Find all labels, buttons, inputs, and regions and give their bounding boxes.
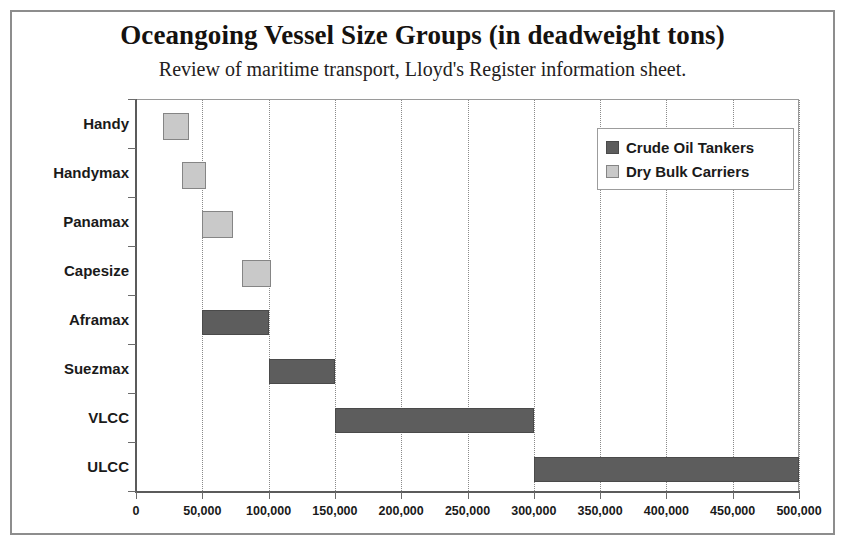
- y-axis-labels: HandyHandymaxPanamaxCapesizeAframaxSuezm…: [5, 99, 129, 491]
- y-axis-category-label: Handymax: [9, 164, 129, 181]
- y-axis-category-label: VLCC: [9, 409, 129, 426]
- chart-subtitle: Review of maritime transport, Lloyd's Re…: [20, 58, 825, 81]
- y-axis-tick: [128, 197, 136, 198]
- y-axis-tick: [128, 246, 136, 247]
- legend-swatch-drybulk: [606, 165, 619, 178]
- chart-page: Oceangoing Vessel Size Groups (in deadwe…: [0, 0, 847, 547]
- y-axis-tick: [128, 442, 136, 443]
- gridline-vertical: [202, 100, 203, 491]
- y-axis-tick: [128, 344, 136, 345]
- x-axis-tick-label: 0: [133, 504, 140, 518]
- x-axis-tick: [468, 492, 469, 499]
- x-axis-tick-label: 50,000: [183, 504, 221, 518]
- x-axis-tick-label: 500,000: [776, 504, 821, 518]
- x-axis-tick-label: 350,000: [578, 504, 623, 518]
- x-axis-tick-label: 100,000: [246, 504, 291, 518]
- x-axis-tick: [202, 492, 203, 499]
- x-axis-tick: [799, 492, 800, 499]
- x-axis-tick-label: 450,000: [710, 504, 755, 518]
- x-axis-tick-label: 250,000: [445, 504, 490, 518]
- bar-handy: [163, 113, 190, 140]
- x-axis-tick-label: 150,000: [312, 504, 357, 518]
- x-axis-tick: [335, 492, 336, 499]
- y-axis-tick: [128, 148, 136, 149]
- gridline-vertical: [799, 100, 800, 491]
- legend-label: Dry Bulk Carriers: [626, 163, 749, 180]
- x-axis-tick-label: 400,000: [644, 504, 689, 518]
- x-axis-tick: [600, 492, 601, 499]
- bar-ulcc: [534, 457, 799, 482]
- bar-handymax: [182, 162, 206, 189]
- legend-item: Dry Bulk Carriers: [606, 159, 785, 183]
- y-axis-category-label: ULCC: [9, 458, 129, 475]
- y-axis-tick: [128, 393, 136, 394]
- legend-label: Crude Oil Tankers: [626, 139, 754, 156]
- bar-suezmax: [269, 359, 335, 384]
- y-axis-category-label: Suezmax: [9, 360, 129, 377]
- gridline-vertical: [269, 100, 270, 491]
- page-title: Oceangoing Vessel Size Groups (in deadwe…: [20, 20, 825, 51]
- bar-capesize: [242, 260, 271, 287]
- x-axis-tick: [401, 492, 402, 499]
- gridline-vertical: [534, 100, 535, 491]
- bar-vlcc: [335, 408, 534, 433]
- chart-legend: Crude Oil TankersDry Bulk Carriers: [597, 128, 794, 190]
- legend-swatch-crude: [606, 141, 619, 154]
- y-axis-category-label: Aframax: [9, 311, 129, 328]
- x-axis-tick: [666, 492, 667, 499]
- y-axis-category-label: Capesize: [9, 262, 129, 279]
- y-axis-tick: [128, 491, 136, 492]
- x-axis-tick-label: 300,000: [511, 504, 556, 518]
- y-axis-category-label: Panamax: [9, 213, 129, 230]
- x-axis-tick-label: 200,000: [379, 504, 424, 518]
- y-axis-tick: [128, 99, 136, 100]
- y-axis-category-label: Handy: [9, 115, 129, 132]
- y-axis-tick: [128, 295, 136, 296]
- x-axis-tick: [534, 492, 535, 499]
- legend-item: Crude Oil Tankers: [606, 135, 785, 159]
- x-axis-tick: [733, 492, 734, 499]
- x-axis-tick: [269, 492, 270, 499]
- bar-aframax: [202, 310, 268, 335]
- x-axis-tick: [136, 492, 137, 499]
- x-axis-labels: 050,000100,000150,000200,000250,000300,0…: [0, 504, 847, 528]
- bar-panamax: [202, 211, 232, 238]
